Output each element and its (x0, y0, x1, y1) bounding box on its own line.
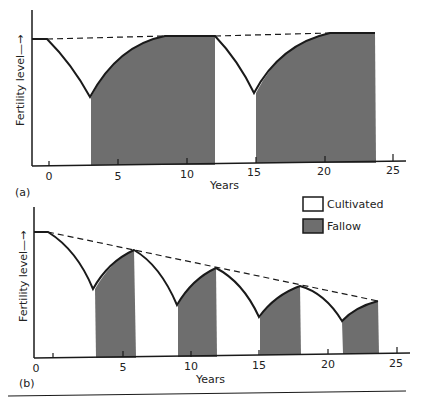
tick-label-b-0: 0 (33, 362, 40, 375)
y-axis-label-a: Fertility level—→ (14, 35, 27, 126)
legend: Cultivated Fallow (303, 197, 383, 233)
bottom-rule (8, 391, 406, 396)
fallow-region-b2 (178, 268, 217, 357)
trend-line-a2 (215, 33, 330, 36)
x-axis-label-b: Years (195, 373, 225, 386)
panel-label-b: (b) (19, 377, 35, 390)
chart-a: 0 5 10 15 20 25 Years Fertility level—→ … (14, 10, 406, 199)
tick-label-b-25: 25 (389, 357, 403, 370)
y-axis-label-b: Fertility level—→ (17, 231, 30, 322)
tick-label-a-5: 5 (115, 170, 122, 183)
legend-label-cultivated: Cultivated (327, 198, 383, 211)
trend-line-a (47, 36, 165, 39)
x-axis-b (34, 353, 410, 358)
tick-label-a-25: 25 (386, 164, 400, 177)
legend-swatch-fallow (303, 219, 323, 233)
tick-label-b-10: 10 (184, 360, 198, 373)
x-axis-label-a: Years (209, 179, 239, 192)
legend-swatch-cultivated (303, 197, 323, 211)
tick-label-a-15: 15 (247, 166, 261, 179)
legend-label-fallow: Fallow (327, 220, 361, 233)
figure: 0 5 10 15 20 25 Years Fertility level—→ … (0, 0, 422, 401)
chart-b: 0 5 10 15 20 25 Years Fertility level—→ … (17, 207, 410, 390)
tick-label-a-0: 0 (46, 170, 53, 183)
fallow-region-a1 (91, 36, 215, 165)
x-axis-a (32, 161, 406, 166)
tick-label-b-15: 15 (252, 359, 266, 372)
fallow-region-b1 (95, 250, 136, 358)
fallow-region-b4 (342, 301, 379, 354)
fallow-region-a2 (256, 33, 376, 163)
tick-label-b-5: 5 (120, 361, 127, 374)
tick-label-a-20: 20 (317, 165, 331, 178)
tick-label-b-20: 20 (321, 358, 335, 371)
tick-label-a-10: 10 (180, 168, 194, 181)
panel-label-a: (a) (15, 186, 30, 199)
